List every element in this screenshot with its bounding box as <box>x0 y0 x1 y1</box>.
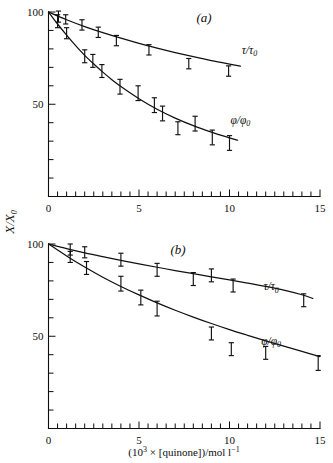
x-tick-label: 0 <box>46 434 52 446</box>
panel-title: (a) <box>196 10 211 25</box>
figure-background <box>0 0 333 463</box>
x-tick-label: 0 <box>46 202 52 214</box>
y-tick-label: 100 <box>27 238 44 250</box>
x-tick-label: 10 <box>224 434 236 446</box>
figure-container: 50100051015 (a)τ/τ0φ/φ0 50100051015 (b)τ… <box>0 0 333 463</box>
panel-title: (b) <box>170 242 185 257</box>
y-tick-label: 50 <box>33 330 45 342</box>
x-tick-label: 10 <box>224 202 236 214</box>
x-tick-label: 15 <box>315 434 327 446</box>
x-tick-label: 5 <box>136 202 142 214</box>
x-tick-label: 5 <box>136 434 142 446</box>
y-tick-label: 50 <box>33 98 45 110</box>
scientific-figure: 50100051015 (a)τ/τ0φ/φ0 50100051015 (b)τ… <box>0 0 333 463</box>
y-tick-label: 100 <box>27 6 44 18</box>
x-tick-label: 15 <box>315 202 327 214</box>
